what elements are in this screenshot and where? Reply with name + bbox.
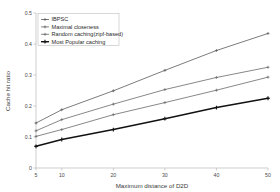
legend-item-3[interactable]: Random caching(zipf-based) — [41, 31, 123, 37]
x-tick-label: 50 — [265, 172, 271, 178]
legend[interactable]: IBPSCMaximal closenessRandom caching(zip… — [38, 14, 123, 46]
x-axis-title: Maximum distance of D2D — [116, 182, 189, 189]
x-tick-label: 10 — [59, 172, 65, 178]
legend-label: Maximal closeness — [52, 24, 99, 30]
x-tick-label: 5 — [35, 172, 38, 178]
y-tick-label: 0.1 — [25, 134, 32, 140]
legend-label: IBPSC — [52, 16, 69, 22]
y-tick-label: 0.4 — [25, 41, 32, 47]
x-tick-label: 20 — [110, 172, 116, 178]
legend-label: Random caching(zipf-based) — [52, 31, 124, 37]
y-tick-label: 0.3 — [25, 72, 32, 78]
y-tick-label: 0 — [29, 165, 32, 171]
x-tick-label: 30 — [162, 172, 168, 178]
x-tick-label: 40 — [214, 172, 220, 178]
y-axis-title: Cache hit ratio — [4, 70, 11, 110]
legend-label: Most Popular caching — [52, 39, 106, 45]
y-tick-label: 0.5 — [25, 10, 32, 16]
legend-item-4[interactable]: Most Popular caching — [41, 39, 105, 45]
y-tick-label: 0.2 — [25, 103, 32, 109]
cache-hit-ratio-line-chart: 00.10.20.30.40.5 51020304050 Cache hit r… — [0, 0, 280, 192]
